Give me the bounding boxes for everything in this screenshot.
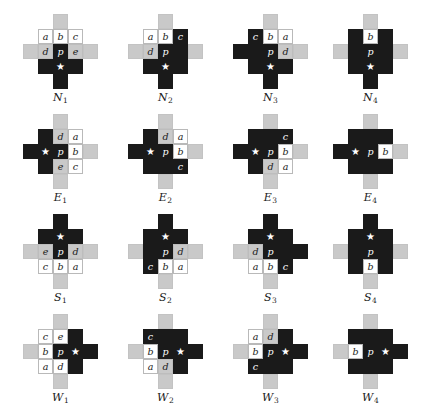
cell-e: e — [38, 244, 53, 259]
cell-empty — [38, 59, 53, 74]
caption-subscript: 4 — [373, 96, 378, 105]
caption-letter: E — [159, 191, 167, 204]
cell-star: ★ — [143, 144, 158, 159]
cell-p: p — [363, 244, 378, 259]
cell-c: c — [143, 259, 158, 274]
arm-left — [23, 244, 38, 259]
cell-p: p — [158, 44, 173, 59]
cell-star: ★ — [348, 144, 363, 159]
cell-c: c — [68, 29, 83, 44]
cell-star: ★ — [53, 229, 68, 244]
diagram-caption: E2 — [159, 191, 173, 205]
arm-left — [128, 344, 143, 359]
cell-empty — [263, 359, 278, 374]
arm-bottom — [53, 374, 68, 389]
cell-b: b — [278, 144, 293, 159]
cell-a: a — [38, 29, 53, 44]
arm-top — [263, 314, 278, 329]
cell-b: b — [173, 144, 188, 159]
cell-empty — [378, 359, 393, 374]
cell-b: b — [363, 29, 378, 44]
cell-p: p — [263, 244, 278, 259]
diagram-s3: ★dpabcS3 — [233, 214, 308, 305]
cell-e: e — [68, 44, 83, 59]
arm-right — [188, 244, 203, 259]
arm-left — [128, 244, 143, 259]
cell-p: p — [363, 344, 378, 359]
arm-bottom — [158, 374, 173, 389]
cell-star: ★ — [38, 144, 53, 159]
arm-bottom — [263, 74, 278, 89]
cell-d: d — [173, 244, 188, 259]
cell-empty — [68, 359, 83, 374]
cell-empty — [263, 129, 278, 144]
cell-star: ★ — [158, 229, 173, 244]
pattern-grid: ★pdcba — [128, 214, 203, 289]
arm-left — [233, 144, 248, 159]
diagram-caption: E4 — [364, 191, 378, 205]
diagram-s4: ★pbS4 — [333, 214, 408, 305]
star-icon: ★ — [56, 62, 65, 72]
arm-bottom — [263, 174, 278, 189]
cell-a: a — [143, 29, 158, 44]
pattern-grid: cbapd★ — [233, 14, 308, 89]
cell-p: p — [53, 144, 68, 159]
cell-empty — [348, 29, 363, 44]
diagram-s2: ★pdcbaS2 — [128, 214, 203, 305]
pattern-grid: ★pb — [333, 214, 408, 289]
cell-empty — [278, 59, 293, 74]
arm-left — [23, 344, 38, 359]
caption-letter: S — [54, 291, 62, 304]
cell-empty — [363, 359, 378, 374]
cell-star: ★ — [378, 344, 393, 359]
cell-star: ★ — [173, 344, 188, 359]
diagram-caption: W4 — [362, 391, 379, 405]
caption-subscript: 4 — [372, 196, 377, 205]
cell-empty — [348, 159, 363, 174]
arm-bottom — [53, 74, 68, 89]
cell-c: c — [173, 159, 188, 174]
arm-bottom — [263, 274, 278, 289]
cell-c: c — [248, 29, 263, 44]
cell-empty — [248, 59, 263, 74]
caption-subscript: 1 — [62, 296, 67, 305]
diagram-w3: adbp★cW3 — [233, 314, 308, 405]
cell-d: d — [158, 129, 173, 144]
cell-star: ★ — [158, 59, 173, 74]
diagram-n3: cbapd★N3 — [233, 14, 308, 105]
arm-right — [393, 344, 408, 359]
cell-c: c — [38, 329, 53, 344]
cell-empty — [348, 129, 363, 144]
cell-c: c — [278, 259, 293, 274]
cell-a: a — [68, 259, 83, 274]
cell-c: c — [248, 359, 263, 374]
arm-top — [158, 114, 173, 129]
cell-p: p — [53, 244, 68, 259]
diagram-caption: S2 — [159, 291, 172, 305]
cell-empty — [173, 329, 188, 344]
arm-bottom — [158, 274, 173, 289]
caption-subscript: 1 — [63, 96, 68, 105]
figure-sheet: abcdpe★N1abcdp★N2cbapd★N3bp★N4da★pbecE1d… — [0, 0, 433, 416]
arm-top — [363, 314, 378, 329]
diagram-caption: E3 — [264, 191, 278, 205]
star-icon: ★ — [351, 147, 360, 157]
cell-star: ★ — [363, 229, 378, 244]
arm-right — [83, 144, 98, 159]
cell-empty — [378, 29, 393, 44]
caption-letter: N — [158, 91, 168, 104]
diagram-caption: E1 — [54, 191, 68, 205]
caption-letter: E — [54, 191, 62, 204]
caption-subscript: 2 — [167, 296, 172, 305]
caption-subscript: 3 — [273, 96, 278, 105]
arm-left — [23, 44, 38, 59]
star-icon: ★ — [281, 347, 290, 357]
caption-letter: N — [263, 91, 273, 104]
caption-letter: W — [157, 391, 169, 404]
caption-letter: S — [264, 291, 272, 304]
arm-right — [188, 144, 203, 159]
arm-bottom — [158, 74, 173, 89]
cell-d: d — [263, 159, 278, 174]
cell-a: a — [143, 359, 158, 374]
caption-subscript: 3 — [272, 196, 277, 205]
